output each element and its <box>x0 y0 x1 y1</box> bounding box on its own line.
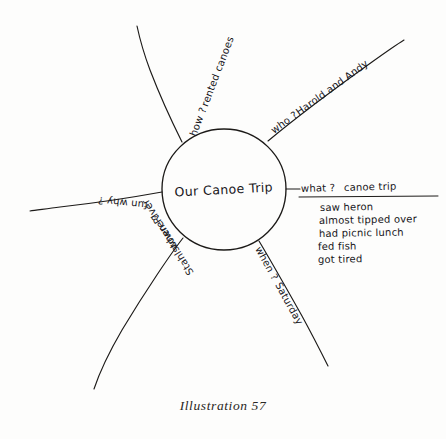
branch-question-why: why ? <box>97 195 128 209</box>
branch-question-how: how ? <box>188 106 209 138</box>
what-underline <box>299 196 438 197</box>
what-detail-item: saw heron <box>320 201 374 213</box>
figure-caption: Illustration 57 <box>0 398 446 414</box>
branch-answer-when: Saturday <box>273 280 305 326</box>
branch-answer-who: Harold and Andy <box>294 58 370 118</box>
what-detail-item: almost tipped over <box>319 213 418 226</box>
branch-label-who: who ? Harold and Andy <box>269 58 370 136</box>
branch-label-where: where ? Stahlstown River <box>139 197 195 278</box>
branch-answer-what: canoe trip <box>344 181 397 193</box>
center-label: Our Canoe Trip <box>174 179 273 199</box>
mind-map-diagram: Our Canoe Trip how ? rented canoes who ?… <box>0 0 446 439</box>
branch-question-what: what ? <box>301 182 336 194</box>
branch-line-how <box>137 26 182 142</box>
what-detail-item: fed fish <box>318 240 357 252</box>
branch-line-where <box>94 238 183 389</box>
branch-question-who: who ? <box>269 109 300 136</box>
branch-answer-how: rented canoes <box>199 35 236 108</box>
what-detail-item: had picnic lunch <box>319 227 404 239</box>
branch-label-when: when ? Saturday <box>253 245 305 327</box>
branch-answer-where: Stahlstown River <box>139 197 195 278</box>
branch-question-when: when ? <box>253 245 280 282</box>
branch-label-how: how ? rented canoes <box>188 35 236 138</box>
illustration-canvas: Our Canoe Trip how ? rented canoes who ?… <box>0 0 446 439</box>
what-detail-item: got tired <box>318 253 363 265</box>
